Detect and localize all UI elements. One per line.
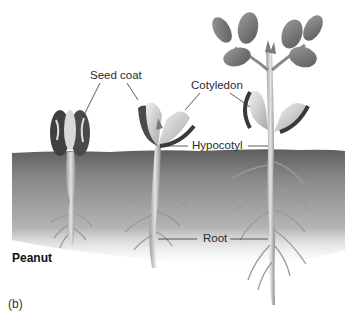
diagram-illustration	[0, 0, 357, 323]
soil	[12, 149, 345, 270]
label-hypocotyl: Hypocotyl	[192, 140, 243, 152]
label-cotyledon: Cotyledon	[191, 80, 243, 92]
label-seed-coat: Seed coat	[90, 70, 142, 82]
species-label: Peanut	[12, 252, 52, 264]
label-root: Root	[203, 233, 227, 245]
panel-label: (b)	[8, 298, 23, 310]
peanut-germination-diagram: Seed coat Cotyledon Hypocotyl Root Peanu…	[0, 0, 357, 323]
